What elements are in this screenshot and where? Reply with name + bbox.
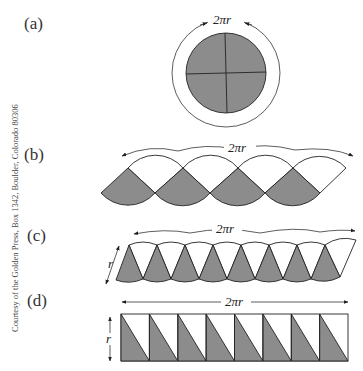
- circumference-label: 2πr: [213, 12, 232, 27]
- panel-a-label: (a): [24, 14, 43, 33]
- arrow-left-icon: [200, 23, 207, 25]
- arrow-right-icon: [245, 23, 252, 25]
- length-label: 2πr: [228, 140, 247, 155]
- panel-d-label: (d): [27, 291, 47, 310]
- panel-c: (c) 2πr r: [27, 221, 356, 284]
- panel-b-label: (b): [24, 145, 44, 164]
- diagram-canvas: Courtesy of the Golden Press, Box 1342, …: [0, 0, 363, 371]
- panel-d: (d) 2πr r: [27, 291, 348, 361]
- length-label: 2πr: [225, 294, 244, 309]
- credit-text: Courtesy of the Golden Press, Box 1342, …: [10, 104, 20, 332]
- length-label: 2πr: [216, 221, 235, 236]
- panel-b: (b) 2πr: [24, 140, 353, 206]
- length-arrow-icon: [134, 229, 355, 234]
- panel-c-label: (c): [27, 226, 46, 245]
- panel-a: (a) 2πr: [24, 12, 280, 127]
